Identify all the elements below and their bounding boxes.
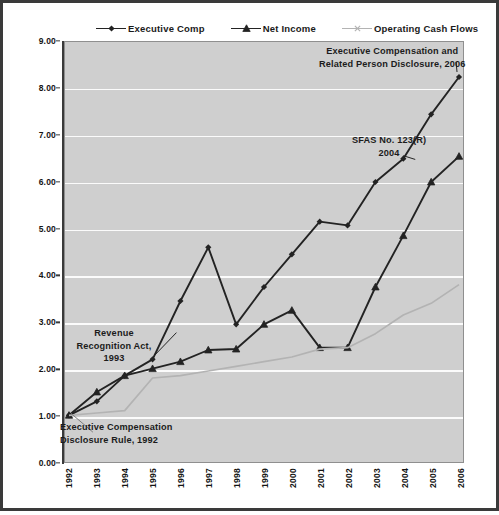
y-axis-tick-label: 0.00 [39, 458, 56, 468]
annotation-revenue-recognition-act: Revenue Recognition Act, 1993 [62, 327, 166, 365]
x-axis-tick-label: 2006 [456, 468, 466, 488]
annotation-line: Revenue [62, 327, 166, 340]
y-axis-tick-mark [56, 134, 60, 135]
x-axis-tick-label: 1997 [204, 468, 214, 488]
y-axis-tick-mark [56, 40, 60, 41]
x-axis-tick-label: 2002 [344, 468, 354, 488]
series-line [69, 77, 459, 415]
series-data-point [93, 388, 100, 395]
y-axis-tick-label: 2.00 [39, 364, 56, 374]
x-axis-tick-label: 2004 [400, 468, 410, 488]
chart-figure: Executive CompNet IncomeOperating Cash F… [0, 0, 499, 515]
x-axis-tick-label: 1993 [92, 468, 102, 488]
y-axis-tick-label: 8.00 [39, 83, 56, 93]
x-axis-tick-label: 1992 [64, 468, 74, 488]
annotation-line: Related Person Disclosure, 2006 [319, 58, 466, 71]
x-axis: 1992199319941995199619971998199920002001… [64, 466, 464, 508]
series-executive-comp [66, 74, 462, 419]
chart-series-svg [65, 42, 463, 462]
x-axis-tick-label: 1994 [120, 468, 130, 488]
x-axis-tick-label: 1995 [148, 468, 158, 488]
y-axis-tick-label: 5.00 [39, 224, 56, 234]
y-axis-tick-label: 1.00 [39, 411, 56, 421]
x-axis-tick-label: 1996 [176, 468, 186, 488]
annotation-line: SFAS No. 123(R) [352, 134, 426, 147]
legend-item-operating-cash-flows[interactable]: Operating Cash Flows [342, 23, 478, 34]
y-axis-tick-mark [56, 369, 60, 370]
x-axis-tick-label: 1999 [260, 468, 270, 488]
series-data-point [288, 307, 295, 314]
y-axis-tick-label: 9.00 [39, 36, 56, 46]
y-axis-tick-mark [56, 181, 60, 182]
y-axis-tick-mark [56, 275, 60, 276]
annotation-line: Recognition Act, [62, 340, 166, 353]
legend-item-executive-comp[interactable]: Executive Comp [96, 23, 205, 34]
figure-top-border [0, 0, 499, 3]
annotation-exec-comp-disclosure-rule: Executive Compensation Disclosure Rule, … [60, 421, 173, 446]
annotation-sfas-123r: SFAS No. 123(R) 2004 [352, 134, 426, 159]
chart-legend: Executive CompNet IncomeOperating Cash F… [96, 19, 426, 37]
annotation-line: 1993 [62, 352, 166, 365]
annotation-exec-comp-2006: Executive Compensation and Related Perso… [319, 45, 466, 70]
y-axis-tick-mark [56, 462, 60, 463]
y-axis-tick-mark [56, 228, 60, 229]
annotation-line: 2004 [352, 147, 426, 160]
figure-left-border [0, 0, 3, 511]
x-axis-tick-label: 2001 [316, 468, 326, 488]
x-axis-tick-label: 2005 [428, 468, 438, 488]
triangle-marker-icon [231, 23, 261, 34]
y-axis: 0.001.002.003.004.005.006.007.008.009.00 [18, 41, 60, 463]
y-axis-tick-label: 6.00 [39, 177, 56, 187]
y-axis-tick-mark [56, 415, 60, 416]
legend-item-label: Operating Cash Flows [374, 23, 478, 34]
legend-item-label: Executive Comp [128, 23, 205, 34]
series-data-point [372, 283, 379, 290]
y-axis-tick-label: 3.00 [39, 317, 56, 327]
y-axis-tick-mark [56, 87, 60, 88]
figure-bottom-border [0, 508, 499, 511]
annotation-line: Executive Compensation and [319, 45, 466, 58]
series-data-point [455, 153, 462, 160]
y-axis-tick-mark [56, 322, 60, 323]
annotation-line: Executive Compensation [60, 421, 173, 434]
x-axis-tick-label: 2000 [288, 468, 298, 488]
series-data-point [400, 232, 407, 239]
y-axis-tick-label: 7.00 [39, 130, 56, 140]
x-axis-tick-label: 1998 [232, 468, 242, 488]
x-axis-tick-label: 2003 [372, 468, 382, 488]
annotation-line: Disclosure Rule, 1992 [60, 434, 173, 447]
y-axis-tick-label: 4.00 [39, 270, 56, 280]
legend-item-label: Net Income [263, 23, 316, 34]
legend-item-net-income[interactable]: Net Income [231, 23, 316, 34]
x-marker-icon [342, 23, 372, 34]
plot-area [64, 41, 464, 463]
diamond-marker-icon [96, 23, 126, 34]
